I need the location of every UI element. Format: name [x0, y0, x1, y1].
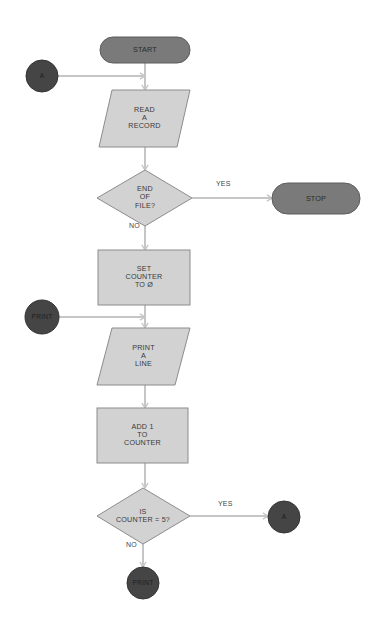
counter-equals-5-decision-label: IS COUNTER = 5? — [116, 508, 170, 525]
arrow-conn-print-in-to-print-line — [59, 314, 145, 320]
arrow-print-line-to-add — [142, 385, 148, 408]
add-counter-label: ADD 1 TO COUNTER — [124, 423, 161, 448]
connector-a-label: A — [40, 72, 45, 80]
arrow-eof-to-set — [142, 226, 148, 250]
arrow-conn-a-in-to-read — [58, 73, 145, 79]
is5-yes-label: YES — [218, 500, 233, 507]
eof-no-label: NO — [129, 222, 140, 229]
end-of-file-decision-label: END OF FILE? — [135, 185, 155, 210]
flowchart-canvas — [0, 0, 380, 638]
eof-yes-label: YES — [216, 180, 231, 187]
read-record-label: READ A RECORD — [128, 106, 160, 131]
arrow-eof-to-stop — [192, 195, 272, 201]
start-terminal-label: START — [133, 46, 157, 54]
connector-a-out-label: A — [282, 513, 287, 521]
stop-terminal-label: STOP — [306, 194, 326, 202]
arrow-is5-to-conn-print-out — [140, 544, 146, 567]
is5-no-label: NO — [126, 541, 137, 548]
connector-print-label: PRINT — [32, 313, 53, 321]
arrow-add-to-is5 — [142, 463, 148, 488]
connector-print-out-label: PRINT — [133, 579, 154, 587]
set-counter-label: SET COUNTER TO Ø — [126, 265, 163, 290]
print-line-label: PRINT A LINE — [132, 344, 155, 369]
arrow-is5-to-conn-a-out — [190, 513, 268, 519]
arrow-read-to-eof — [142, 147, 148, 170]
